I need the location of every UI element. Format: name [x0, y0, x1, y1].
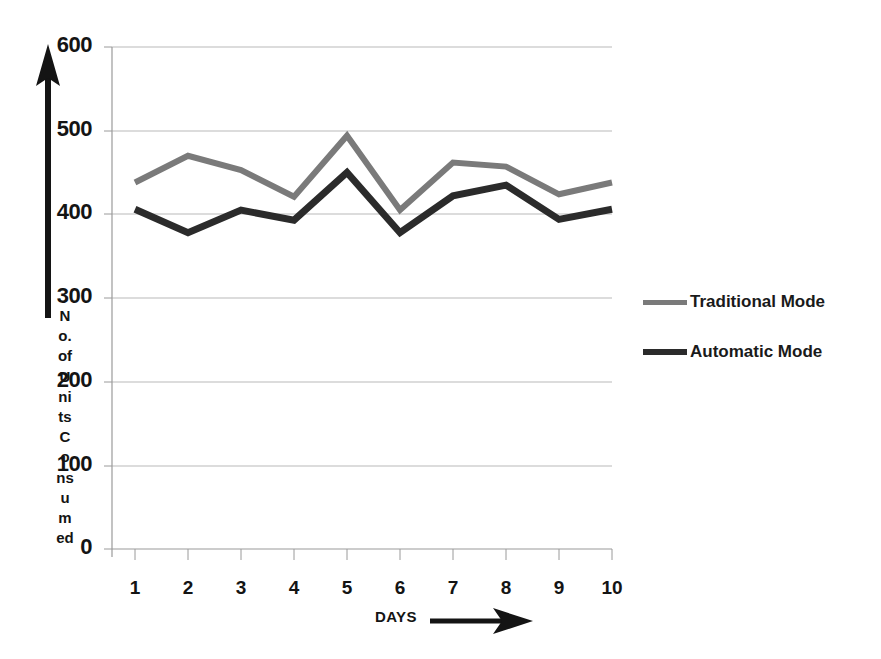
legend-label-traditional-mode: Traditional Mode	[690, 292, 825, 312]
y-axis-direction-arrow-icon	[36, 44, 60, 318]
x-axis-direction-arrow-icon	[430, 608, 533, 634]
y-axis-title-part: u	[52, 488, 78, 508]
y-axis-title-part: ni	[52, 387, 78, 407]
legend-swatch-traditional-mode	[643, 300, 687, 305]
y-tick-label-500: 500	[40, 118, 92, 140]
legend-item-automatic-mode[interactable]: Automatic Mode	[643, 327, 873, 377]
y-axis-title-part: ns	[52, 468, 78, 488]
y-axis-title-part: N	[52, 306, 78, 326]
x-tick-label-6: 6	[380, 578, 420, 597]
legend-item-traditional-mode[interactable]: Traditional Mode	[643, 277, 873, 327]
x-tick-label-2: 2	[168, 578, 208, 597]
y-axis-title-part: U	[52, 367, 78, 387]
x-tick-label-1: 1	[115, 578, 155, 597]
y-axis-title-part: o	[52, 447, 78, 467]
x-tick-label-10: 10	[592, 578, 632, 597]
y-axis-title-part: C	[52, 427, 78, 447]
y-axis-title-part: ed	[52, 528, 78, 548]
chart-legend: Traditional Mode Automatic Mode	[643, 277, 873, 377]
x-tick-label-5: 5	[327, 578, 367, 597]
y-axis-ticks	[104, 47, 112, 549]
y-tick-label-400: 400	[40, 201, 92, 223]
y-tick-label-300: 300	[40, 285, 92, 307]
x-tick-label-7: 7	[433, 578, 473, 597]
legend-label-automatic-mode: Automatic Mode	[690, 342, 822, 362]
legend-swatch-automatic-mode	[643, 349, 687, 355]
x-tick-label-9: 9	[539, 578, 579, 597]
y-axis-title: N o. of U ni ts C o ns u m ed	[52, 306, 78, 548]
y-tick-label-600: 600	[40, 34, 92, 56]
y-axis-title-part: of	[52, 346, 78, 366]
line-chart: 600 500 400 300 200 100 0 N o. of U ni t…	[0, 0, 881, 659]
gridlines	[112, 47, 612, 549]
x-axis-ticks	[135, 549, 612, 560]
x-axis-title: DAYS	[375, 608, 417, 625]
y-axis-title-part: o.	[52, 326, 78, 346]
x-tick-label-4: 4	[274, 578, 314, 597]
y-axis-title-part: ts	[52, 407, 78, 427]
x-tick-label-8: 8	[486, 578, 526, 597]
x-tick-label-3: 3	[221, 578, 261, 597]
y-axis-title-part: m	[52, 508, 78, 528]
